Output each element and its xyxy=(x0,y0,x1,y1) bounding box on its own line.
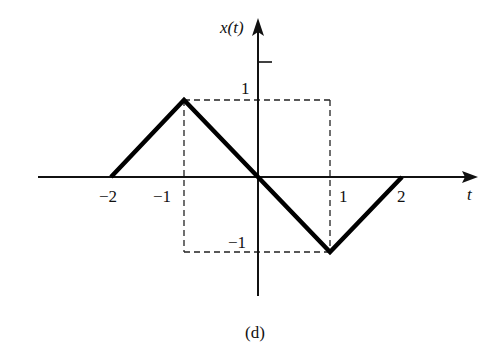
y-tick-1: 1 xyxy=(241,79,250,98)
x-tick-2: 2 xyxy=(397,187,406,206)
signal-plot: x(t) t −2 −1 1 2 1 −1 (d) xyxy=(0,0,497,358)
x-tick-neg2: −2 xyxy=(99,187,117,206)
x-tick-1: 1 xyxy=(339,187,348,206)
figure-caption: (d) xyxy=(245,323,265,342)
x-axis-label: t xyxy=(467,185,473,204)
y-axis-label: x(t) xyxy=(219,18,244,37)
y-axis xyxy=(252,18,272,296)
y-tick-neg1: −1 xyxy=(228,233,246,252)
x-tick-neg1: −1 xyxy=(153,187,171,206)
